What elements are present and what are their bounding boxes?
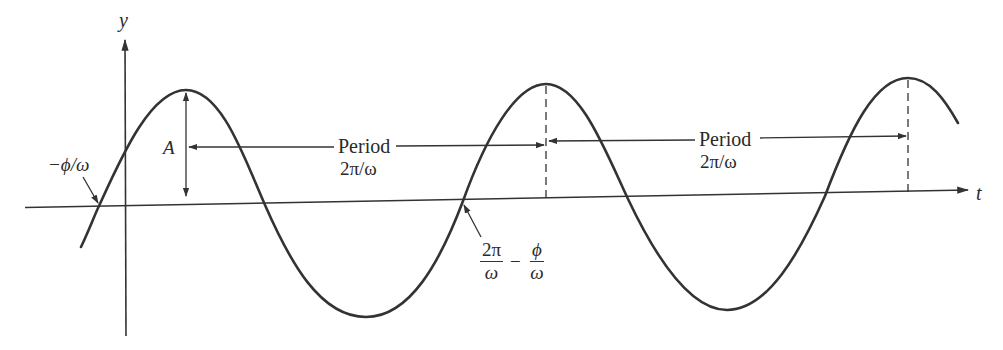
y-axis-label: y [119,10,128,30]
period2-left-arrow [549,140,695,141]
period1-right-arrow [396,145,544,146]
phase-shift-pointer [83,177,98,203]
crossing-label: 2π ω − ϕ ω [478,240,598,290]
period1-value: 2π/ω [340,159,377,178]
period2-label: Period [699,129,751,149]
amplitude-label: A [163,138,175,157]
t-axis-label: t [976,183,982,203]
period2-right-arrow [760,136,906,138]
y-axis [125,40,126,336]
sinusoid-plot [0,0,1003,350]
period2-value: 2π/ω [700,152,737,171]
phase-shift-label: −ϕ/ω [48,155,89,174]
sinusoid-diagram: y t A −ϕ/ω Period 2π/ω Period 2π/ω 2π ω … [0,0,1003,350]
crossing-fraction-1: 2π ω [480,240,503,283]
period1-label: Period [338,136,390,156]
crossing-fraction-2: ϕ ω [530,240,544,283]
crossing-minus: − [510,252,521,271]
crossing-pointer [464,205,481,237]
